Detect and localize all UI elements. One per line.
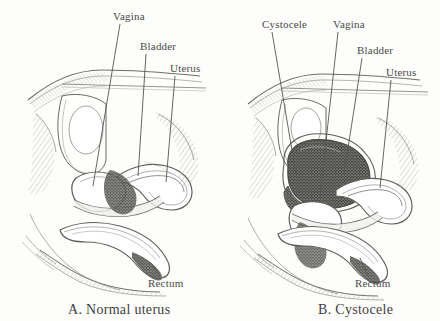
label-vagina-a: Vagina [113,10,145,22]
label-bladder-a: Bladder [140,40,176,52]
label-bladder-b: Bladder [357,44,393,56]
label-rectum-b: Rectum [355,277,390,289]
caption-panel-b: B. Cystocele [318,302,393,318]
label-cystocele-b: Cystocele [262,18,307,30]
label-rectum-a: Rectum [148,277,183,289]
leader-bladder-a [138,54,146,176]
anatomy-figure: Vagina Bladder Uterus Rectum Cystocele V… [0,0,440,321]
caption-panel-a: A. Normal uterus [68,302,170,318]
label-uterus-a: Uterus [170,62,201,74]
label-uterus-b: Uterus [386,66,417,78]
label-vagina-b: Vagina [333,18,365,30]
